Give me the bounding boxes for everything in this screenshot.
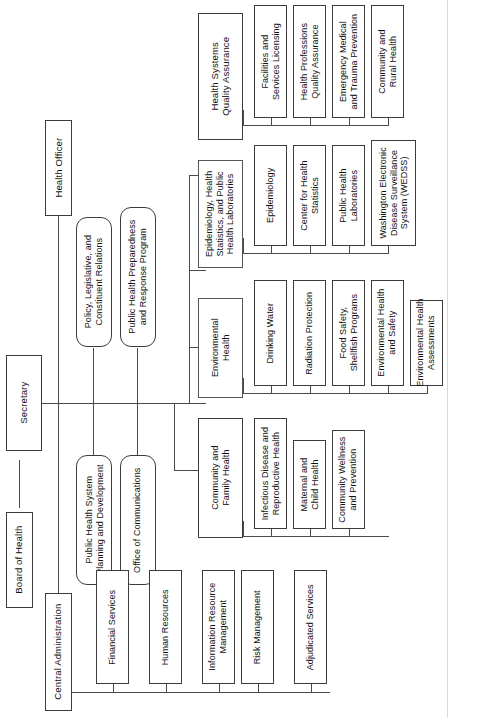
page-edge-line [447, 0, 448, 718]
connector-eh-c2 [310, 386, 311, 394]
node-health-systems-quality-assurance[interactable]: Health SystemsQuality Assurance [198, 13, 243, 140]
node-food-safety-label: Food Safety,Shellfish Programs [338, 294, 359, 371]
node-human-resources-label: Human Resources [160, 589, 171, 665]
node-central-administration[interactable]: Central Administration [45, 593, 72, 711]
node-radiation-protection[interactable]: Radiation Protection [293, 280, 326, 386]
connector-epi-c1 [271, 246, 272, 254]
connector-main-spine [58, 403, 206, 404]
connector-eh-head-drop [243, 378, 244, 394]
node-epidemiology-label: Epidemiology [265, 168, 276, 223]
connector-eh-c3 [349, 386, 350, 394]
node-health-professions-qa-label: Health ProfessionsQuality Assurance [299, 23, 320, 100]
node-wedss-label: Washington ElectronicDisease Surveillanc… [378, 147, 410, 238]
connector-staff-policy [93, 348, 94, 404]
connector-ca-c5 [311, 684, 312, 693]
connector-ca-c3 [219, 684, 220, 693]
node-public-health-labs-label: Public HealthLaboratories [338, 168, 359, 222]
node-board-of-health-label: Board of Health [14, 526, 25, 594]
connector-division-bus [189, 175, 190, 404]
connector-board-secretary [19, 460, 20, 508]
connector-eh-c1 [271, 386, 272, 394]
connector-ca-children-bus [58, 692, 330, 693]
org-chart-canvas: Board of Health Secretary Health Officer… [0, 0, 479, 718]
node-policy-legislative-constituent-relations[interactable]: Policy, Legislative, andConstituent Rela… [76, 217, 112, 347]
node-community-and-rural-health[interactable]: Community andRural Health [371, 5, 404, 118]
node-radiation-protection-label: Radiation Protection [304, 291, 315, 374]
connector-ca-c1 [113, 684, 114, 693]
node-financial-services[interactable]: Financial Services [96, 570, 129, 684]
node-public-health-preparedness-response[interactable]: Public Health Preparednessand Response P… [120, 207, 156, 347]
connector-spine-cfh [174, 403, 175, 471]
connector-staff-phs-planning [93, 403, 94, 455]
connector-spine-central-admin [58, 403, 59, 593]
node-environmental-health-assessments-label: Environmental HealthAssessments [416, 299, 437, 387]
node-public-health-laboratories[interactable]: Public HealthLaboratories [332, 145, 365, 246]
node-community-rural-health-label: Community andRural Health [377, 29, 398, 93]
node-center-health-statistics-label: Center for HealthStatistics [299, 160, 320, 230]
connector-ca-c2 [166, 684, 167, 693]
connector-staff-communications [137, 403, 138, 455]
node-health-officer[interactable]: Health Officer [45, 120, 72, 216]
node-office-of-communications-label: Office of Communications [133, 467, 144, 572]
node-maternal-and-child-health[interactable]: Maternal andChild Health [293, 440, 326, 529]
node-facilities-and-services-licensing[interactable]: Facilities andServices Licensing [254, 5, 287, 118]
node-infectious-disease-label: Infectious Disease andReproductive Healt… [260, 427, 281, 520]
node-public-health-preparedness-label: Public Health Preparednessand Response P… [127, 220, 148, 334]
node-community-and-family-health[interactable]: Community andFamily Health [198, 418, 243, 538]
connector-cfh-children-bus [243, 536, 389, 537]
node-health-professions-quality-assurance[interactable]: Health ProfessionsQuality Assurance [293, 5, 326, 118]
node-board-of-health[interactable]: Board of Health [6, 512, 33, 608]
connector-epi-children-bus [243, 253, 389, 254]
node-community-wellness-and-prevention[interactable]: Community Wellnessand Prevention [332, 430, 365, 529]
node-adjudicated-services-label: Adjudicated Services [305, 584, 316, 670]
node-emergency-medical-label: Emergency Medicaland Trauma Prevention [338, 14, 359, 110]
node-center-for-health-statistics[interactable]: Center for HealthStatistics [293, 145, 326, 246]
node-community-wellness-label: Community Wellnessand Prevention [338, 436, 359, 522]
node-epi-group-label: Epidemiology, HealthStatistics, and Publ… [205, 171, 237, 257]
node-information-resource-management[interactable]: Information ResourceManagement [202, 570, 235, 684]
connector-hsqa-c1 [271, 118, 272, 126]
node-secretary-label: Secretary [18, 382, 29, 424]
connector-epi-c3 [349, 246, 350, 254]
node-wedss[interactable]: Washington ElectronicDisease Surveillanc… [371, 140, 416, 246]
node-public-health-system-planning-label: Public Health SystemPlanning and Develop… [83, 465, 104, 575]
node-hsqa-label: Health SystemsQuality Assurance [209, 37, 232, 116]
node-facilities-licensing-label: Facilities andServices Licensing [260, 23, 281, 100]
connector-hsqa-children-bus [243, 125, 389, 126]
connector-hsqa-c4 [388, 118, 389, 126]
connector-eh-c5 [427, 386, 428, 394]
connector-hsqa-c2 [310, 118, 311, 126]
connector-ca-c4 [258, 684, 259, 693]
connector-eh-c4 [388, 386, 389, 394]
node-epidemiology[interactable]: Epidemiology [254, 145, 287, 246]
node-secretary[interactable]: Secretary [6, 355, 42, 451]
node-drinking-water[interactable]: Drinking Water [254, 280, 287, 386]
connector-hsqa-head-drop [243, 110, 244, 126]
node-food-safety-shellfish-programs[interactable]: Food Safety,Shellfish Programs [332, 280, 365, 386]
node-environmental-health-safety-label: Environmental Healthand Safety [377, 289, 398, 377]
connector-cfh-c2 [310, 529, 311, 537]
node-risk-management[interactable]: Risk Management [241, 570, 274, 684]
node-central-administration-label: Central Administration [53, 604, 64, 700]
node-environmental-health[interactable]: EnvironmentalHealth [198, 298, 243, 398]
node-epidemiology-health-statistics-labs[interactable]: Epidemiology, HealthStatistics, and Publ… [198, 160, 243, 268]
node-maternal-child-health-label: Maternal andChild Health [299, 458, 320, 512]
connector-bus-epi [189, 270, 206, 271]
node-environmental-health-assessments[interactable]: Environmental HealthAssessments [410, 300, 443, 386]
connector-staff-preparedness [137, 348, 138, 404]
node-environmental-health-and-safety[interactable]: Environmental Healthand Safety [371, 280, 404, 386]
node-infectious-disease-reproductive-health[interactable]: Infectious Disease andReproductive Healt… [254, 418, 287, 529]
node-human-resources[interactable]: Human Resources [149, 570, 182, 684]
node-adjudicated-services[interactable]: Adjudicated Services [294, 570, 327, 684]
node-public-health-system-planning-development[interactable]: Public Health SystemPlanning and Develop… [76, 455, 112, 585]
node-risk-management-label: Risk Management [252, 590, 263, 664]
connector-epi-head-drop [243, 238, 244, 254]
node-financial-services-label: Financial Services [107, 590, 118, 665]
connector-cfh-c3 [349, 529, 350, 537]
node-emergency-medical-trauma-prevention[interactable]: Emergency Medicaland Trauma Prevention [332, 5, 365, 118]
connector-cfh-c1 [271, 529, 272, 537]
node-office-of-communications[interactable]: Office of Communications [120, 455, 156, 585]
node-information-resource-management-label: Information ResourceManagement [208, 583, 229, 671]
node-drinking-water-label: Drinking Water [265, 303, 276, 364]
node-community-family-health-label: Community andFamily Health [210, 446, 231, 510]
